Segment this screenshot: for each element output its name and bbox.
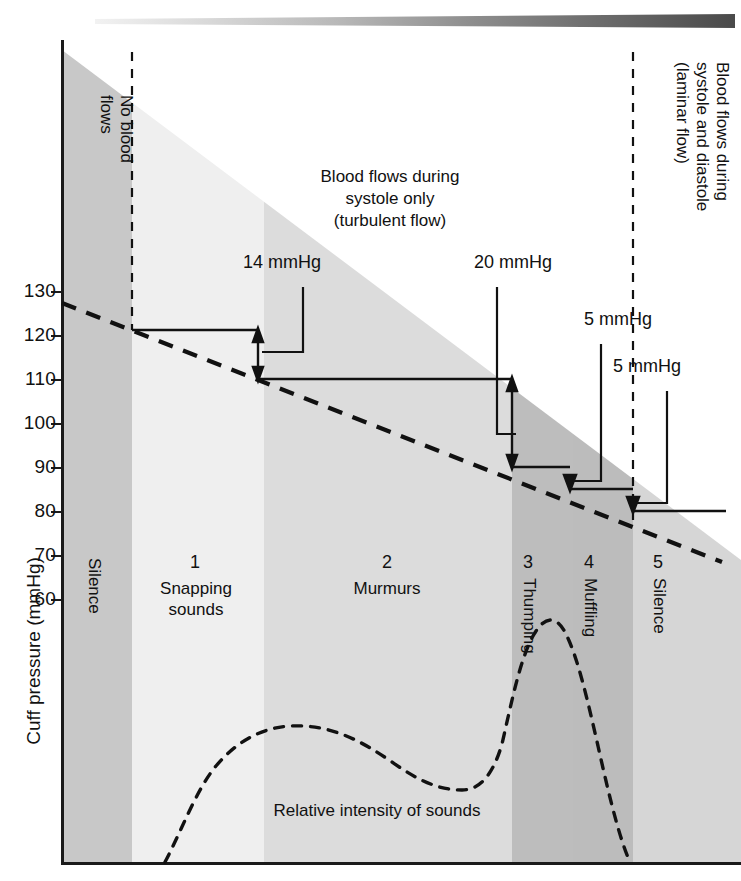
phase-number-5: 5 (641, 552, 675, 573)
relative-intensity-curve (165, 620, 630, 862)
cuff-pressure-decline-line (62, 303, 722, 562)
phase-label-4: Muffling (580, 578, 600, 678)
drop-label-14: 14 mmHg (243, 252, 321, 273)
phase-label-3: Thumping (519, 578, 539, 688)
phase-number-2: 2 (352, 552, 422, 573)
phase-label-1: Snapping sounds (135, 578, 257, 621)
phase-number-4: 4 (572, 552, 606, 573)
drop-arrows (253, 328, 639, 513)
intensity-curve-caption: Relative intensity of sounds (232, 800, 522, 822)
phase-number-3: 3 (511, 552, 545, 573)
annotation-no-blood-flows: No blood flows (96, 95, 136, 275)
phase-label-5: Silence (649, 578, 669, 673)
drop-label-5b: 5 mmHg (613, 356, 681, 377)
drop-label-20: 20 mmHg (474, 252, 552, 273)
chart-figure: 130 120 110 100 90 80 70 60 Cuff pressur… (0, 0, 741, 881)
phase-label-silence-left: Silence (84, 558, 104, 668)
drop-label-5a: 5 mmHg (584, 309, 652, 330)
annotation-systole-and-diastole: Blood flows during systole and diastole … (672, 62, 732, 282)
annotation-systole-only: Blood flows during systole only (turbule… (265, 166, 515, 231)
phase-label-2: Murmurs (327, 578, 447, 599)
phase-number-1: 1 (160, 552, 230, 573)
